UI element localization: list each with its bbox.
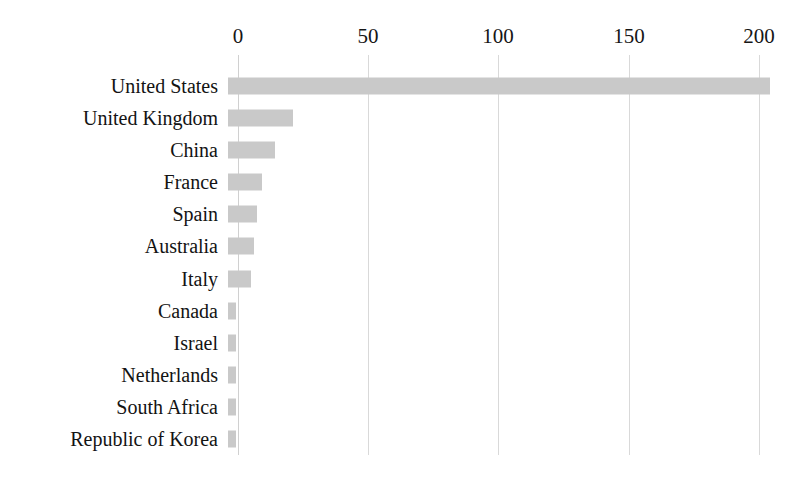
x-tick-label-200: 200	[743, 26, 775, 47]
bar	[228, 238, 254, 255]
bar-track	[228, 359, 807, 391]
bar-track	[228, 263, 807, 295]
category-label: Canada	[0, 301, 228, 321]
x-tick-label-100: 100	[482, 26, 514, 47]
category-label: Australia	[0, 236, 228, 256]
bar	[228, 142, 275, 159]
bar-rows: United StatesUnited KingdomChinaFranceSp…	[0, 70, 807, 455]
bar	[228, 398, 236, 415]
bar-row: France	[0, 166, 807, 198]
bar-track	[228, 70, 807, 102]
bar-track	[228, 198, 807, 230]
category-label: Netherlands	[0, 365, 228, 385]
x-tick-label-50: 50	[358, 26, 379, 47]
category-label: China	[0, 140, 228, 160]
category-label: Israel	[0, 333, 228, 353]
bar-track	[228, 327, 807, 359]
bar-row: Spain	[0, 198, 807, 230]
bar-track	[228, 166, 807, 198]
bar-row: China	[0, 134, 807, 166]
bar	[228, 302, 236, 319]
bar-chart: 0 50 100 150 200 United StatesUnited Kin…	[0, 0, 807, 480]
category-label: Spain	[0, 204, 228, 224]
category-label: United Kingdom	[0, 108, 228, 128]
bar-track	[228, 295, 807, 327]
x-tick-label-150: 150	[613, 26, 645, 47]
bar	[228, 174, 262, 191]
category-label: Republic of Korea	[0, 429, 228, 449]
bar-row: Australia	[0, 230, 807, 262]
bar-row: Republic of Korea	[0, 423, 807, 455]
bar	[228, 430, 236, 447]
bar-row: South Africa	[0, 391, 807, 423]
bar-track	[228, 230, 807, 262]
bar-row: Israel	[0, 327, 807, 359]
bar-track	[228, 391, 807, 423]
bar-track	[228, 134, 807, 166]
bar-row: Italy	[0, 263, 807, 295]
bar-row: United Kingdom	[0, 102, 807, 134]
category-label: France	[0, 172, 228, 192]
bar	[228, 78, 770, 95]
category-label: South Africa	[0, 397, 228, 417]
bar	[228, 206, 257, 223]
bar	[228, 110, 293, 127]
bar	[228, 366, 236, 383]
bar-row: Canada	[0, 295, 807, 327]
bar-track	[228, 423, 807, 455]
bar	[228, 334, 236, 351]
bar	[228, 270, 251, 287]
bar-row: United States	[0, 70, 807, 102]
bar-row: Netherlands	[0, 359, 807, 391]
category-label: United States	[0, 76, 228, 96]
bar-track	[228, 102, 807, 134]
category-label: Italy	[0, 269, 228, 289]
x-tick-label-0: 0	[233, 26, 244, 47]
